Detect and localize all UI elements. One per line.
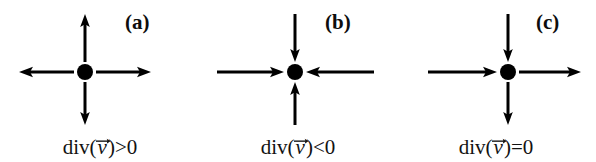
panel-caption-c: div(v)=0 [396, 137, 596, 158]
caption-prefix: div( [63, 135, 97, 159]
arrow-up [503, 14, 513, 62]
caption-suffix: )=0 [504, 135, 533, 159]
arrow-up [290, 14, 300, 62]
arrow-right [96, 67, 151, 77]
panel-caption-a: div(v)>0 [0, 137, 200, 158]
arrow-right [519, 67, 581, 77]
arrow-left [428, 67, 497, 77]
panel-label-b: (b) [325, 12, 351, 33]
panel-a: (a) div(v)>0 [0, 0, 200, 162]
vector-symbol: v [97, 137, 108, 158]
vector-letter: v [296, 135, 305, 159]
arrow-left [19, 67, 74, 77]
panel-caption-b: div(v)<0 [198, 137, 398, 158]
arrow-up [80, 14, 90, 62]
arrow-right [306, 67, 374, 77]
vector-letter: v [494, 135, 503, 159]
center-point [500, 64, 516, 80]
caption-suffix: )>0 [108, 135, 137, 159]
arrow-left [217, 67, 284, 77]
center-point [77, 64, 93, 80]
panel-label-a: (a) [125, 12, 150, 33]
panel-c: (c) div(v)=0 [396, 0, 596, 162]
arrow-down [80, 82, 90, 125]
caption-prefix: div( [261, 135, 295, 159]
arrow-down [503, 82, 513, 125]
panel-label-c: (c) [536, 12, 559, 33]
caption-prefix: div( [459, 135, 493, 159]
caption-suffix: )<0 [306, 135, 335, 159]
vector-symbol: v [493, 137, 504, 158]
panel-b: (b) div(v)<0 [198, 0, 398, 162]
divergence-figure: (a) div(v)>0 [0, 0, 596, 162]
vector-letter: v [98, 135, 107, 159]
arrow-down [290, 82, 300, 125]
vector-symbol: v [295, 137, 306, 158]
center-point [287, 64, 303, 80]
